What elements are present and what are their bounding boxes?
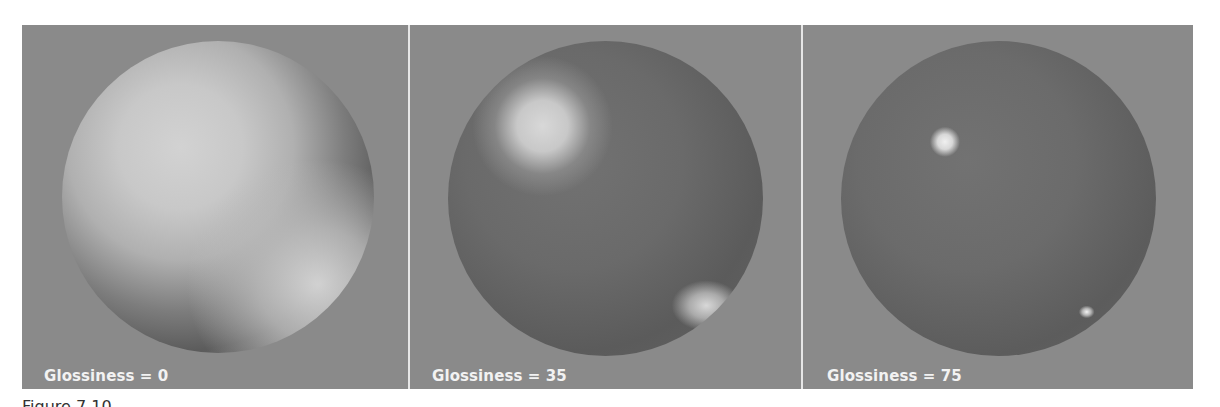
glossiness-comparison-figure: Glossiness = 0 Glossiness = 35 Glossines… bbox=[22, 25, 1193, 389]
panel-label: Glossiness = 35 bbox=[432, 367, 567, 385]
sphere-render-glossiness-75 bbox=[841, 41, 1156, 356]
sphere-render-glossiness-0 bbox=[62, 41, 374, 353]
panel-glossiness-75: Glossiness = 75 bbox=[803, 25, 1193, 389]
figure-caption: Figure 7.10 bbox=[22, 396, 112, 407]
panel-glossiness-35: Glossiness = 35 bbox=[410, 25, 801, 389]
panel-label: Glossiness = 0 bbox=[44, 367, 168, 385]
panel-label: Glossiness = 75 bbox=[827, 367, 962, 385]
sphere-render-glossiness-35 bbox=[448, 41, 763, 356]
panel-glossiness-0: Glossiness = 0 bbox=[22, 25, 408, 389]
